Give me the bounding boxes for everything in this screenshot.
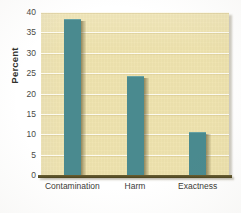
y-axis-title: Percent — [9, 26, 20, 106]
x-axis-baseline — [38, 175, 232, 178]
y-axis-tick-label: 10 — [27, 129, 36, 139]
y-axis-tick-label: 35 — [27, 27, 36, 37]
bar-exactness — [189, 132, 206, 175]
bar-shadow — [144, 78, 149, 176]
y-axis-tick-label: 5 — [31, 150, 36, 160]
x-axis-category-label: Contamination — [45, 181, 100, 191]
y-axis-tick-label: 20 — [27, 89, 36, 99]
y-axis-tick-label: 25 — [27, 68, 36, 78]
x-axis-category-label: Harm — [125, 181, 146, 191]
y-axis-tick-label: 15 — [27, 109, 36, 119]
y-axis-tick-label: 0 — [31, 170, 36, 180]
bar-chart-figure: Percent 0510152025303540 ContaminationHa… — [0, 0, 241, 213]
bar-shadow — [206, 134, 211, 176]
bar-shadow — [81, 21, 86, 176]
y-axis-tick-label: 40 — [27, 7, 36, 17]
bar-contamination — [64, 19, 81, 175]
gridline — [41, 12, 229, 13]
bar-harm — [127, 76, 144, 175]
y-axis-tick-label: 30 — [27, 48, 36, 58]
plot-area: 0510152025303540 — [41, 12, 229, 175]
x-axis-category-label: Exactness — [178, 181, 217, 191]
